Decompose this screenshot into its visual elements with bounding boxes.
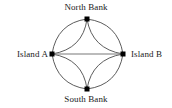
node-label-north-bank: North Bank (0, 2, 172, 12)
node-west (50, 52, 55, 57)
edge-group-west-south (52, 54, 87, 89)
node-label-island-b: Island B (131, 49, 172, 59)
edge-group-west-north (52, 19, 87, 54)
edge-south-east-inner (87, 54, 123, 89)
node-label-south-bank: South Bank (0, 94, 172, 104)
node-south (85, 87, 90, 92)
edge-group-north-east (87, 19, 123, 54)
edge-west-north-outer (52, 19, 87, 54)
graph-diagram: North Bank Island A Island B South Bank (0, 0, 172, 108)
edge-north-east-inner (87, 19, 123, 54)
edge-north-east-outer (87, 19, 123, 54)
node-east (121, 52, 126, 57)
edge-group-south-east (87, 54, 123, 89)
edge-west-north-inner (52, 19, 87, 54)
node-north (85, 17, 90, 22)
edge-south-east-outer (87, 54, 123, 89)
node-label-island-a: Island A (0, 49, 48, 59)
edge-west-south-inner (52, 54, 87, 89)
edge-west-south-outer (52, 54, 87, 89)
